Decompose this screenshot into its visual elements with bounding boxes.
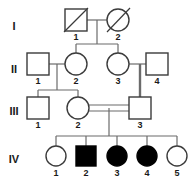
individual-i-2[interactable]: 2 xyxy=(107,8,130,42)
generation-label-iv: IV xyxy=(9,153,20,165)
individual-number: 1 xyxy=(35,76,40,86)
individual-ii-2[interactable]: 2 xyxy=(65,53,87,86)
individual-number: 4 xyxy=(144,168,149,178)
individual-iv-4[interactable]: 4 xyxy=(137,146,157,178)
individual-ii-4[interactable]: 4 xyxy=(146,53,168,86)
individual-iv-2[interactable]: 2 xyxy=(76,146,96,178)
symbol-female-unaffected[interactable] xyxy=(167,146,187,166)
generation-labels: I II III IV xyxy=(9,20,20,165)
individual-iii-3[interactable]: 3 xyxy=(129,97,151,130)
individual-iv-3[interactable]: 3 xyxy=(107,146,127,178)
individual-number: 2 xyxy=(75,120,80,130)
individual-ii-1[interactable]: 1 xyxy=(27,53,49,86)
individual-number: 2 xyxy=(73,76,78,86)
symbol-female-unaffected[interactable] xyxy=(65,53,87,75)
generation-label-iii: III xyxy=(9,105,18,117)
pedigree-chart: I II III IV xyxy=(0,0,194,183)
generation-label-i: I xyxy=(12,20,15,32)
pedigree-canvas: I II III IV xyxy=(0,0,194,183)
symbol-male-unaffected[interactable] xyxy=(129,97,151,119)
individual-number: 2 xyxy=(115,32,120,42)
symbol-female-unaffected[interactable] xyxy=(67,97,89,119)
symbol-female-affected[interactable] xyxy=(137,146,157,166)
individual-number: 3 xyxy=(114,168,119,178)
individual-number: 3 xyxy=(137,120,142,130)
symbol-female-unaffected[interactable] xyxy=(46,146,66,166)
individual-i-1[interactable]: 1 xyxy=(64,8,88,42)
individual-number: 1 xyxy=(35,120,40,130)
individual-ii-3[interactable]: 3 xyxy=(107,53,129,86)
individual-iii-2[interactable]: 2 xyxy=(67,97,89,130)
individual-number: 3 xyxy=(115,76,120,86)
symbol-male-affected[interactable] xyxy=(76,146,96,166)
symbol-male-unaffected[interactable] xyxy=(146,53,168,75)
individual-number: 4 xyxy=(154,76,159,86)
individual-iv-1[interactable]: 1 xyxy=(46,146,66,178)
individual-iv-5[interactable]: 5 xyxy=(167,146,187,178)
individual-iii-1[interactable]: 1 xyxy=(27,97,49,130)
individual-number: 1 xyxy=(73,32,78,42)
symbol-male-unaffected[interactable] xyxy=(27,53,49,75)
generation-label-ii: II xyxy=(11,63,17,75)
individual-number: 1 xyxy=(53,168,58,178)
symbol-female-unaffected[interactable] xyxy=(107,53,129,75)
symbol-female-affected[interactable] xyxy=(107,146,127,166)
individual-number: 2 xyxy=(83,168,88,178)
individual-number: 5 xyxy=(174,168,179,178)
symbol-male-unaffected[interactable] xyxy=(27,97,49,119)
